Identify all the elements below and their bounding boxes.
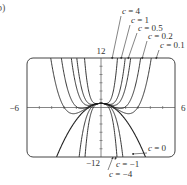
annotation-c=0: c = 0 [148,143,167,153]
annotation-c=0.1: c = 0.1 [160,40,185,50]
annotation-c=−4: c = −4 [109,169,133,179]
annotation-arrow [112,16,121,59]
annotation-labels: −6612−12c = 4c = 1c = 0.5c = 0.2c = 0.1c… [9,6,186,179]
x-max-label: 6 [181,103,186,113]
x-min-label: −6 [9,103,19,113]
function-family-plot: −6612−12c = 4c = 1c = 0.5c = 0.2c = 0.1c… [0,0,187,185]
y-min-label: −12 [86,158,100,168]
annotation-arrow [142,41,147,59]
annotation-arrow [132,153,147,154]
y-max-label: 12 [97,46,106,56]
annotation-arrow [128,33,137,59]
annotation-c=−1: c = −1 [116,159,139,169]
annotation-arrow [121,25,130,59]
